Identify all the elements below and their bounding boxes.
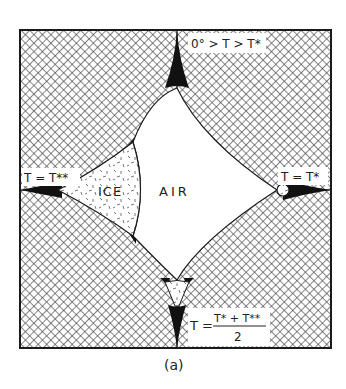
ice-region-right <box>277 184 289 196</box>
label-air: AIR <box>159 184 190 199</box>
figure-caption: (a) <box>164 357 184 373</box>
label-ice: ICE <box>98 184 122 199</box>
label-bottom-lhs: T = <box>189 318 213 333</box>
label-bottom-numerator: T* + T** <box>213 312 261 325</box>
label-left-condition: T = T** <box>23 171 68 185</box>
pore-diagram: 0° > T > T* T = T** T = T* T = T* + T** … <box>0 0 346 389</box>
label-top-condition: 0° > T > T* <box>191 37 261 51</box>
label-bottom-denominator: 2 <box>234 330 242 344</box>
label-right-condition: T = T* <box>280 170 319 184</box>
